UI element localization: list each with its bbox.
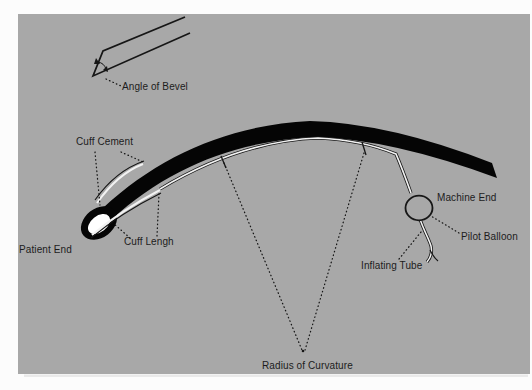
label-cuff-lengh: Cuff Lengh <box>124 236 174 247</box>
pilot-balloon-shape <box>406 196 433 221</box>
label-machine-end: Machine End <box>437 192 496 203</box>
figure-page: Angle of Bevel Cuff Cement Patient End C… <box>0 0 532 390</box>
panel-shadow <box>24 375 528 377</box>
label-inflating-tube: Inflating Tube <box>361 260 422 271</box>
label-pilot-balloon: Pilot Balloon <box>461 231 518 242</box>
label-angle-of-bevel: Angle of Bevel <box>122 81 188 92</box>
label-patient-end: Patient End <box>19 244 72 255</box>
label-cuff-cement: Cuff Cement <box>76 136 133 147</box>
radius-apex-dot <box>302 350 305 353</box>
label-radius-of-curvature: Radius of Curvature <box>262 360 353 371</box>
